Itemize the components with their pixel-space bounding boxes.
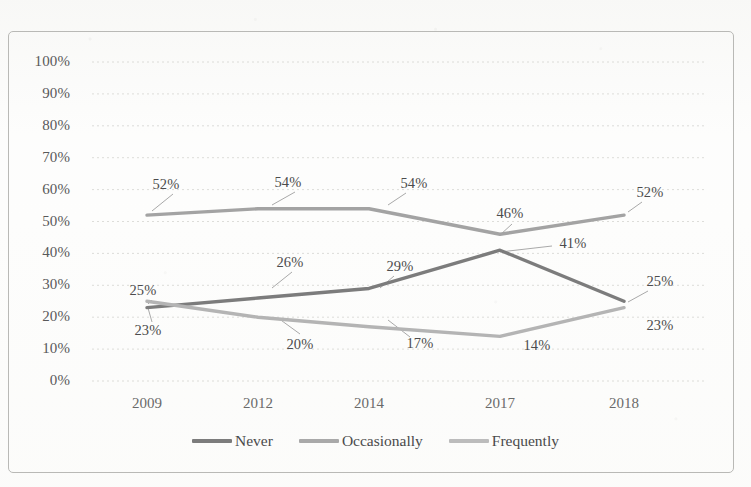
y-axis-tick-label: 100% [16,54,70,69]
legend-item-frequently[interactable]: Frequently [449,432,559,450]
y-axis-tick-label: 90% [16,86,70,101]
data-point-label: 20% [286,336,313,353]
chart-screenshot: 100%90%80%70%60%50%40%30%20%10%0% 200920… [0,0,751,487]
legend-swatch-icon [299,439,339,443]
data-point-label: 46% [496,205,523,222]
x-axis-tick-labels: 20092012201420172018 [0,395,751,417]
y-axis-tick-label: 30% [16,277,70,292]
data-point-label: 54% [274,174,301,191]
data-point-label: 25% [646,273,673,290]
data-point-label: 29% [386,258,413,275]
y-axis-tick-label: 10% [16,341,70,356]
data-point-label: 14% [523,337,550,354]
legend-swatch-icon [192,439,232,443]
y-axis-tick-label: 0% [16,373,70,388]
legend-swatch-icon [449,439,489,443]
data-point-label: 52% [636,184,663,201]
y-axis-tick-label: 50% [16,214,70,229]
chart-legend: NeverOccasionallyFrequently [0,432,751,450]
x-axis-tick-label: 2017 [485,395,515,412]
legend-item-label: Frequently [491,432,559,450]
legend-item-occasionally[interactable]: Occasionally [299,432,423,450]
data-point-label: 23% [646,317,673,334]
data-point-label: 17% [406,335,433,352]
data-point-label: 52% [152,176,179,193]
data-point-label: 26% [276,254,303,271]
x-axis-tick-label: 2018 [609,395,639,412]
y-axis-tick-label: 60% [16,182,70,197]
x-axis-tick-label: 2009 [132,395,162,412]
data-point-label: 54% [400,175,427,192]
y-axis-tick-label: 20% [16,309,70,324]
legend-item-never[interactable]: Never [192,432,273,450]
data-point-label: 23% [134,322,161,339]
data-point-label: 41% [559,235,586,252]
y-axis-tick-label: 80% [16,118,70,133]
legend-item-label: Occasionally [341,432,423,450]
data-point-label: 25% [129,282,156,299]
legend-item-label: Never [234,432,273,450]
y-axis-tick-label: 70% [16,150,70,165]
x-axis-tick-label: 2014 [354,395,384,412]
x-axis-tick-label: 2012 [243,395,273,412]
y-axis-tick-label: 40% [16,245,70,260]
